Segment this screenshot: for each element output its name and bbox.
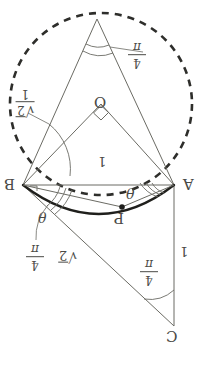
point-label-a: A	[183, 176, 194, 191]
angle-arc-at-c	[144, 290, 174, 299]
pi-over-4-apex-numerator: 4	[133, 57, 141, 70]
pi-over-4-ll-numerator: 4	[31, 259, 39, 272]
one-over-sqrt2-bar	[16, 102, 35, 103]
segment-b-c	[23, 185, 174, 326]
theta-label-at-a: θ	[126, 186, 134, 200]
geometry-figure: B A O P C 1 1 θ θ 4 π 4 π 4 π √ 2 1 √ 2	[0, 0, 203, 370]
length-label-right-one: 1	[180, 245, 188, 258]
sqrt2-upper-radical: √ 2	[16, 104, 35, 119]
length-label-sqrt2: √ 2	[58, 248, 77, 264]
sqrt2-lower-radicand: 2	[58, 248, 68, 263]
sqrt-sign-lower: √	[68, 250, 77, 264]
pi-over-4-c-numerator: 4	[145, 274, 153, 287]
pi-over-4-c-bar	[140, 272, 158, 273]
sqrt2-lower-radical: √ 2	[58, 248, 77, 264]
length-label-one-over-sqrt2: √ 2 1	[16, 88, 35, 118]
angle-label-pi-over-4-lower-left: 4 π	[26, 243, 44, 271]
angle-label-pi-over-4-apex: 4 π	[128, 41, 146, 69]
angle-label-pi-over-4-at-c: 4 π	[140, 258, 158, 286]
figure-canvas	[0, 0, 203, 370]
pi-over-4-ll-bar	[26, 257, 44, 258]
one-over-sqrt2-numerator: 1	[21, 88, 29, 101]
length-label-center-one: 1	[98, 155, 106, 168]
apex-angle-arc	[86, 44, 109, 47]
pi-over-4-apex-bar	[128, 55, 146, 56]
radius-oa	[101, 104, 174, 185]
pi-over-4-apex-denominator: π	[133, 41, 141, 54]
pi-over-4-ll-denominator: π	[31, 243, 39, 256]
theta-label-at-b: θ	[38, 210, 46, 224]
point-label-o: O	[94, 94, 106, 109]
apex-angle-arc-2	[83, 51, 113, 56]
sqrt2-upper-radicand: 2	[16, 104, 26, 118]
sqrt-sign-upper: √	[26, 104, 35, 118]
point-label-b: B	[4, 176, 15, 191]
point-label-c: C	[166, 328, 177, 343]
pi-over-4-c-denominator: π	[145, 258, 153, 271]
angle-arc-b-upper	[49, 124, 70, 176]
point-label-p: P	[114, 210, 124, 225]
